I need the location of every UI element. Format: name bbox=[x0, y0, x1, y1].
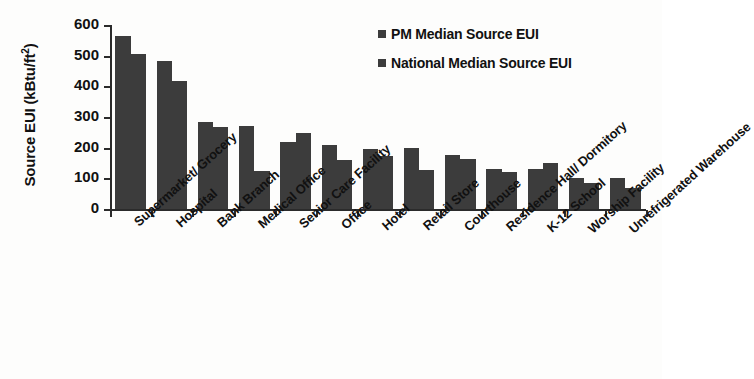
x-axis-category-label: Hotel bbox=[379, 201, 412, 233]
x-axis-category-label: Office bbox=[338, 197, 375, 232]
